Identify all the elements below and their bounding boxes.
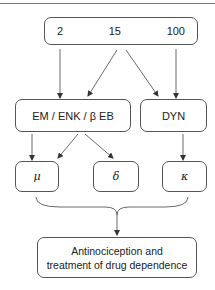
delta-label: δ	[113, 170, 120, 183]
arrow-peptides-to-mu-2	[58, 134, 78, 158]
receptor-box-mu: μ	[15, 161, 59, 192]
arrow-dose15-to-peptides	[88, 50, 117, 96]
kappa-label: κ	[181, 170, 188, 183]
dose-100: 100	[167, 25, 185, 37]
dose-2: 2	[57, 25, 63, 37]
dose-box: 2 15 100	[44, 17, 198, 45]
peptide-label: EM / ENK / β EB	[32, 110, 114, 122]
peptide-box-dyn: DYN	[140, 99, 207, 132]
receptor-box-kappa: κ	[162, 161, 207, 192]
outcome-line-2: treatment of drug dependence	[47, 258, 188, 272]
outcome-box: Antinociception and treatment of drug de…	[37, 237, 197, 278]
curly-brace	[36, 197, 188, 215]
outcome-line-1: Antinociception and	[71, 244, 163, 258]
dyn-label: DYN	[162, 110, 185, 122]
receptor-box-delta: δ	[93, 161, 139, 192]
mu-label: μ	[33, 170, 40, 183]
dose-15: 15	[109, 25, 121, 37]
arrow-peptides-to-delta	[85, 134, 113, 158]
peptide-box-em-enk-beb: EM / ENK / β EB	[15, 99, 131, 132]
arrow-dose15-to-dyn	[126, 50, 158, 96]
